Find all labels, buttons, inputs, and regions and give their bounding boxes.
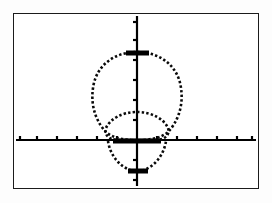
calculator-screen: [0, 0, 272, 203]
polar-plot: [0, 0, 272, 203]
